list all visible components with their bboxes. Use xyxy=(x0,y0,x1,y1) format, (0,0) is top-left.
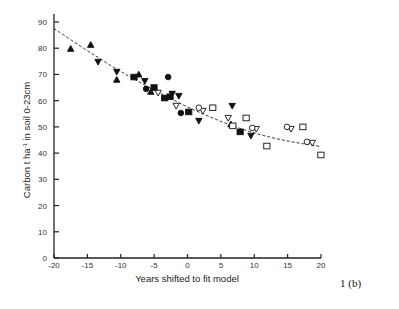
filled-triangle-down-marker xyxy=(229,103,235,109)
x-tick-label: -10 xyxy=(115,261,127,270)
open-triangle-down-marker xyxy=(155,90,161,96)
filled-square-marker xyxy=(131,74,137,80)
open-triangle-down-marker xyxy=(173,103,179,109)
filled-square-marker xyxy=(237,129,243,135)
open-square-marker xyxy=(210,105,216,111)
filled-triangle-down-marker xyxy=(114,69,120,75)
filled-circle-marker xyxy=(178,110,184,116)
x-tick-label: 10 xyxy=(250,261,259,270)
x-tick-label: 15 xyxy=(283,261,292,270)
x-tick-label: -5 xyxy=(151,261,159,270)
y-tick-label: 10 xyxy=(38,228,47,237)
open-circle-marker xyxy=(284,124,290,130)
x-axis-title: Years shifted to fit model xyxy=(135,273,239,284)
filled-triangle-up-marker xyxy=(88,42,94,48)
open-circle-marker xyxy=(249,125,255,131)
open-square-marker xyxy=(300,124,306,130)
open-triangle-down-marker xyxy=(225,115,231,121)
y-tick-label: 20 xyxy=(38,202,47,211)
filled-triangle-down-marker xyxy=(248,133,254,139)
y-axis-title: Carbon t ha-1 in soil 0-23cm xyxy=(21,82,32,198)
y-tick-label: 0 xyxy=(43,254,48,263)
figure-label: 1 (b) xyxy=(340,277,361,289)
x-tick-label: 20 xyxy=(317,261,326,270)
filled-triangle-up-marker xyxy=(114,76,120,82)
y-tick-label: 40 xyxy=(38,149,47,158)
x-tick-label: -20 xyxy=(48,261,60,270)
filled-triangle-down-marker xyxy=(176,93,182,99)
y-tick-label: 80 xyxy=(38,44,47,53)
filled-circle-marker xyxy=(165,74,171,80)
open-square-marker xyxy=(318,152,324,158)
filled-triangle-up-marker xyxy=(67,46,73,52)
open-square-marker xyxy=(264,143,270,149)
open-circle-marker xyxy=(196,105,202,111)
open-circle-marker xyxy=(304,139,310,145)
filled-triangle-down-marker xyxy=(196,118,202,124)
x-tick-label: 0 xyxy=(185,261,190,270)
filled-triangle-down-marker xyxy=(95,59,101,65)
data-points xyxy=(67,42,324,158)
x-tick-label: -15 xyxy=(82,261,94,270)
x-tick-label: 5 xyxy=(219,261,224,270)
open-square-marker xyxy=(230,123,236,129)
filled-triangle-down-marker xyxy=(142,78,148,84)
open-square-marker xyxy=(243,115,249,121)
y-tick-label: 70 xyxy=(38,70,47,79)
axes: -20-15-10-5051015200102030405060708090 xyxy=(38,14,326,270)
filled-circle-marker xyxy=(143,86,149,92)
filled-square-marker xyxy=(167,94,173,100)
filled-square-marker xyxy=(151,85,157,91)
y-tick-label: 90 xyxy=(38,18,47,27)
y-tick-label: 50 xyxy=(38,123,47,132)
filled-square-marker xyxy=(186,109,192,115)
scatter-chart: -20-15-10-5051015200102030405060708090 Y… xyxy=(0,0,399,309)
fit-line xyxy=(54,29,321,147)
y-tick-label: 60 xyxy=(38,97,47,106)
y-tick-label: 30 xyxy=(38,175,47,184)
